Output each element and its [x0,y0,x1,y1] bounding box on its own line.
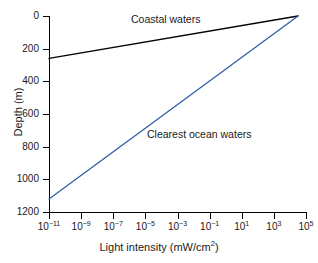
series-line-clearest-ocean-waters [49,16,298,199]
x-axis-title-base: Light intensity (mW/cm [99,241,210,253]
x-axis-title-tail: ) [215,241,219,253]
y-axis-title: Depth (m) [12,62,24,162]
light-attenuation-chart: 020040060080010001200 10−1110−910−710−51… [0,0,318,263]
series-label-clearest-ocean-waters: Clearest ocean waters [147,128,251,140]
x-axis-title: Light intensity (mW/cm2) [0,241,318,253]
series-label-coastal-waters: Coastal waters [131,13,200,25]
